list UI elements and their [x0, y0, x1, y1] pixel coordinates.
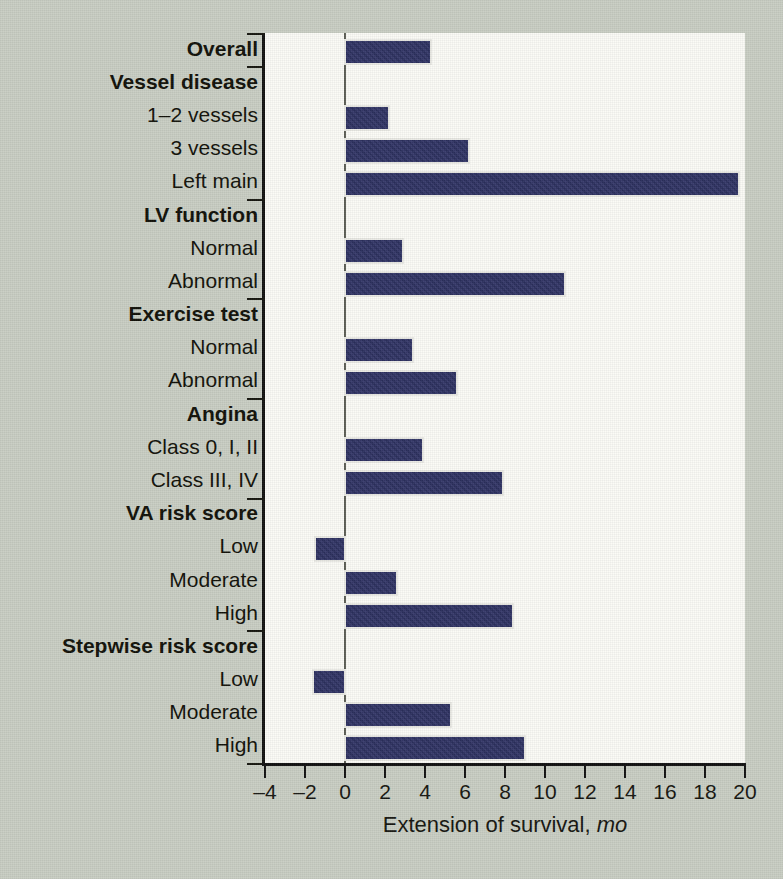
x-axis-tick — [584, 766, 586, 778]
x-axis-tick — [384, 766, 386, 778]
category-labels-column: OverallVessel disease1–2 vessels3 vessel… — [0, 0, 258, 879]
x-axis-tick-label: 4 — [403, 780, 447, 804]
x-axis-tick — [464, 766, 466, 778]
bar — [344, 570, 398, 596]
x-axis-tick — [664, 766, 666, 778]
x-axis-title-text: Extension of survival, — [383, 812, 591, 837]
x-axis-tick-label: 16 — [643, 780, 687, 804]
bar — [344, 271, 566, 297]
figure-panel: OverallVessel disease1–2 vessels3 vessel… — [0, 0, 783, 879]
x-axis-tick — [424, 766, 426, 778]
bar — [344, 370, 458, 396]
category-label: High — [6, 602, 258, 623]
category-label: Angina — [6, 403, 258, 424]
category-label: Abnormal — [6, 270, 258, 291]
category-label: 3 vessels — [6, 137, 258, 158]
bar — [344, 105, 390, 131]
x-axis-tick — [304, 766, 306, 778]
bar — [312, 669, 346, 695]
bar — [344, 437, 424, 463]
category-label: LV function — [6, 204, 258, 225]
x-axis-title-unit: mo — [597, 812, 628, 837]
plot-area — [265, 33, 745, 763]
bar — [344, 735, 526, 761]
x-axis-tick-label: 14 — [603, 780, 647, 804]
x-axis-tick-label: 20 — [723, 780, 767, 804]
category-label: Overall — [6, 38, 258, 59]
x-axis-tick — [344, 766, 346, 778]
bar — [344, 470, 504, 496]
category-label: Class 0, I, II — [6, 436, 258, 457]
bar — [344, 337, 414, 363]
x-axis-tick-label: –2 — [283, 780, 327, 804]
bar — [344, 603, 514, 629]
x-axis-tick — [504, 766, 506, 778]
x-axis-tick-label: 0 — [323, 780, 367, 804]
category-label: Exercise test — [6, 303, 258, 324]
category-label: Low — [6, 535, 258, 556]
x-axis-title: Extension of survival, mo — [265, 812, 745, 838]
category-label: Left main — [6, 170, 258, 191]
category-label: Normal — [6, 237, 258, 258]
category-label: Vessel disease — [6, 71, 258, 92]
x-axis-tick — [624, 766, 626, 778]
x-axis-tick-label: 12 — [563, 780, 607, 804]
category-label: Moderate — [6, 569, 258, 590]
x-axis-tick-label: 2 — [363, 780, 407, 804]
bar — [314, 536, 346, 562]
category-label: Low — [6, 668, 258, 689]
x-axis-tick-label: 6 — [443, 780, 487, 804]
x-axis-tick — [544, 766, 546, 778]
x-axis-tick-label: 8 — [483, 780, 527, 804]
x-axis-tick — [264, 766, 266, 778]
category-label: Moderate — [6, 701, 258, 722]
x-axis-tick-label: 10 — [523, 780, 567, 804]
x-axis-tick — [744, 766, 746, 778]
category-label: Class III, IV — [6, 469, 258, 490]
x-axis-tick — [704, 766, 706, 778]
bar — [344, 138, 470, 164]
category-label: VA risk score — [6, 502, 258, 523]
bar — [344, 39, 432, 65]
category-label: Stepwise risk score — [6, 635, 258, 656]
bar — [344, 238, 404, 264]
category-label: Abnormal — [6, 369, 258, 390]
x-axis-tick-label: 18 — [683, 780, 727, 804]
category-label: Normal — [6, 336, 258, 357]
bar — [344, 171, 740, 197]
bar — [344, 702, 452, 728]
category-label: High — [6, 734, 258, 755]
category-label: 1–2 vessels — [6, 104, 258, 125]
